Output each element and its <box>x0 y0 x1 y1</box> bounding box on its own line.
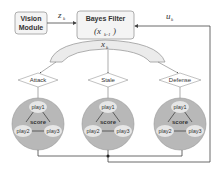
svg-text:play3: play3 <box>116 128 129 134</box>
svg-text:score: score <box>100 119 117 125</box>
svg-text:Stale: Stale <box>101 77 115 83</box>
svg-text:play1: play1 <box>31 104 44 110</box>
mode-stale: Stale play1 score play2 play3 <box>82 73 134 150</box>
svg-text:k: k <box>171 17 174 22</box>
bayes-filter-state: (x <box>94 26 101 36</box>
bayes-filter-diagram: Vision Module z k Bayes Filter (x k-1 ) … <box>0 0 221 169</box>
svg-text:play1: play1 <box>173 104 186 110</box>
svg-text:k: k <box>63 16 66 21</box>
vision-module-box: Vision Module <box>15 12 47 34</box>
bayes-filter-title: Bayes Filter <box>86 15 126 23</box>
vision-module-label-1: Vision <box>21 15 42 22</box>
output-bus <box>38 150 182 156</box>
svg-text:z: z <box>57 10 62 20</box>
vision-module-label-2: Module <box>19 24 44 31</box>
svg-text:score: score <box>30 119 47 125</box>
control-label: u k <box>166 11 174 22</box>
svg-text:k-1: k-1 <box>104 32 110 37</box>
svg-text:Defense: Defense <box>169 77 192 83</box>
svg-text:play3: play3 <box>46 128 59 134</box>
svg-text:play2: play2 <box>16 128 29 134</box>
state-distribution-arc <box>50 40 165 62</box>
observation-label: z k <box>57 10 66 21</box>
svg-text:x: x <box>100 39 105 49</box>
svg-text:play3: play3 <box>188 128 201 134</box>
svg-text:play2: play2 <box>86 128 99 134</box>
svg-text:Attack: Attack <box>30 77 48 83</box>
mode-defense: Defense play1 score play2 play3 <box>154 73 206 150</box>
junction-dot <box>107 155 110 158</box>
svg-text:play1: play1 <box>101 104 114 110</box>
svg-text:): ) <box>112 26 116 36</box>
bayes-filter-box: Bayes Filter (x k-1 ) <box>77 11 134 39</box>
svg-text:play2: play2 <box>158 128 171 134</box>
mode-attack: Attack play1 score play2 play3 <box>12 73 64 150</box>
svg-text:score: score <box>172 119 189 125</box>
